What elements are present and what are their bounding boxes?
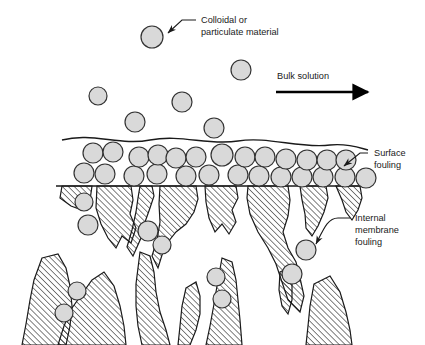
particle: [213, 290, 231, 308]
particle: [176, 166, 196, 186]
bulk-solution-label: Bulk solution: [277, 71, 329, 81]
particle: [211, 144, 233, 166]
internal-fouling-label-line3: fouling: [355, 237, 382, 247]
surface-fouling-label-line1: Surface: [374, 148, 406, 158]
particle: [138, 221, 158, 241]
particle: [55, 304, 73, 322]
particle: [255, 147, 275, 167]
particle: [95, 164, 115, 184]
particle: [317, 150, 337, 170]
particle: [141, 26, 163, 48]
particle: [129, 147, 149, 167]
particle: [166, 148, 186, 168]
particle: [356, 168, 376, 188]
particle: [296, 240, 316, 260]
particle: [147, 164, 167, 184]
particle: [83, 143, 103, 163]
internal-fouling-label-line2: membrane: [355, 225, 399, 235]
particle: [204, 118, 224, 138]
particle: [148, 145, 168, 165]
surface-fouling-label-line2: fouling: [374, 160, 401, 170]
colloidal-label-line1: Colloidal or: [201, 15, 247, 25]
particle: [297, 150, 317, 170]
particle: [78, 215, 98, 235]
internal-fouling-label-line1: Internal: [355, 213, 386, 223]
particle: [124, 166, 144, 186]
particle: [74, 163, 94, 183]
particle: [231, 60, 251, 80]
particle: [103, 142, 123, 162]
particle: [207, 268, 225, 286]
particle: [228, 165, 248, 185]
particle: [125, 112, 145, 132]
particle: [235, 147, 255, 167]
particle: [249, 166, 269, 186]
particle: [271, 167, 291, 187]
particle: [282, 264, 302, 284]
particle: [336, 150, 356, 170]
particle: [172, 92, 192, 112]
particle: [153, 236, 171, 254]
particle: [276, 149, 296, 169]
particle: [89, 87, 107, 105]
particle: [75, 193, 93, 211]
particle: [186, 147, 206, 167]
membrane-fouling-diagram: Colloidal or particulate material Bulk s…: [0, 0, 425, 345]
particle: [68, 282, 86, 300]
colloidal-label-line2: particulate material: [201, 27, 279, 37]
particle: [199, 165, 219, 185]
